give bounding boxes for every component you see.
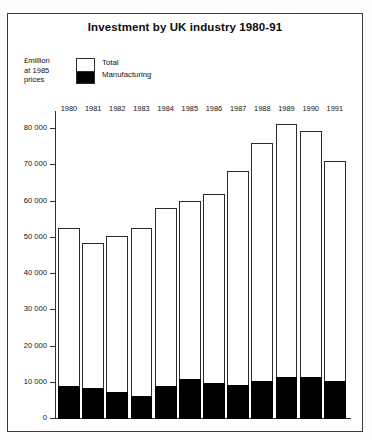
- y-axis-tick-label: 40 000: [24, 268, 47, 277]
- x-axis-tick-label: 1986: [203, 104, 225, 113]
- y-axis-unit-caption: £million at 1985 prices: [24, 56, 50, 85]
- bar-manufacturing: [251, 381, 273, 419]
- bar-total: [227, 171, 249, 419]
- bar-total: [324, 161, 346, 419]
- page-title: Investment by UK industry 1980-91: [8, 21, 362, 33]
- bar-total: [82, 243, 104, 419]
- x-axis-tick-label: 1990: [300, 104, 322, 113]
- y-axis-tick: 50 000: [50, 237, 56, 238]
- legend-swatch-manufacturing: [77, 71, 94, 83]
- y-axis-tick-label: 60 000: [24, 196, 47, 205]
- y-axis-tick: 10 000: [50, 382, 56, 383]
- legend-label-total: Total: [102, 58, 118, 67]
- bar-manufacturing: [106, 392, 128, 419]
- x-axis-tick-label: 1982: [106, 104, 128, 113]
- y-axis-tick: 40 000: [50, 273, 56, 274]
- bar-manufacturing: [300, 377, 322, 419]
- x-axis-tick-label: 1981: [82, 104, 104, 113]
- y-axis-tick-label: 0: [43, 413, 47, 422]
- bar-manufacturing: [227, 385, 249, 419]
- y-axis-tick-label: 30 000: [24, 304, 47, 313]
- bar-manufacturing: [131, 396, 153, 419]
- x-axis-tick-label: 1989: [276, 104, 298, 113]
- bar-manufacturing: [82, 388, 104, 419]
- x-axis-tick-label: 1987: [227, 104, 249, 113]
- bar-manufacturing: [58, 386, 80, 419]
- y-axis-tick: 80 000: [50, 128, 56, 129]
- bar-manufacturing: [155, 386, 177, 419]
- legend-swatch-group: [76, 58, 95, 84]
- x-axis-tick-label: 1988: [251, 104, 273, 113]
- bar-manufacturing: [324, 381, 346, 419]
- legend-label-manufacturing: Manufacturing: [102, 70, 151, 79]
- bar-total: [106, 236, 128, 419]
- y-axis-tick-label: 50 000: [24, 232, 47, 241]
- x-axis-tick-label: 1983: [131, 104, 153, 113]
- bar-total: [276, 124, 298, 419]
- page-background: Investment by UK industry 1980-91 £milli…: [0, 0, 372, 440]
- y-axis-tick-label: 70 000: [24, 159, 47, 168]
- bar-total: [155, 208, 177, 419]
- legend-swatch-total: [77, 59, 94, 71]
- y-axis-tick: 60 000: [50, 201, 56, 202]
- bar-total: [179, 201, 201, 419]
- bar-manufacturing: [276, 377, 298, 419]
- y-axis-tick-label: 20 000: [24, 341, 47, 350]
- bar-manufacturing: [203, 383, 225, 419]
- bar-total: [251, 143, 273, 419]
- x-axis-tick-label: 1980: [58, 104, 80, 113]
- bar-total: [203, 194, 225, 419]
- y-axis-tick: 0: [50, 418, 56, 419]
- bar-total: [58, 228, 80, 419]
- x-axis-tick-label: 1991: [324, 104, 346, 113]
- chart-figure-frame: Investment by UK industry 1980-91 £milli…: [7, 13, 363, 432]
- y-axis-line: [55, 111, 56, 419]
- x-axis-tick-label: 1985: [179, 104, 201, 113]
- bar-total: [131, 228, 153, 419]
- bar-manufacturing: [179, 379, 201, 419]
- bar-total: [300, 131, 322, 419]
- y-axis-tick: 20 000: [50, 346, 56, 347]
- y-axis-tick-label: 10 000: [24, 377, 47, 386]
- y-axis-tick: 30 000: [50, 309, 56, 310]
- y-axis-tick-label: 80 000: [24, 123, 47, 132]
- plot-area: 010 00020 00030 00040 00050 00060 00070 …: [55, 98, 351, 419]
- x-axis-tick-label: 1984: [155, 104, 177, 113]
- y-axis-tick: 70 000: [50, 164, 56, 165]
